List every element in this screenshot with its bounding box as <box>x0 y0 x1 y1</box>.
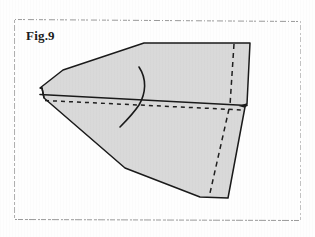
figure-container: Fig.9 <box>0 0 315 237</box>
figure-label: Fig.9 <box>26 29 55 43</box>
folded-paper-fill <box>40 43 250 198</box>
border-bottom <box>15 220 300 221</box>
border-top <box>15 20 300 22</box>
